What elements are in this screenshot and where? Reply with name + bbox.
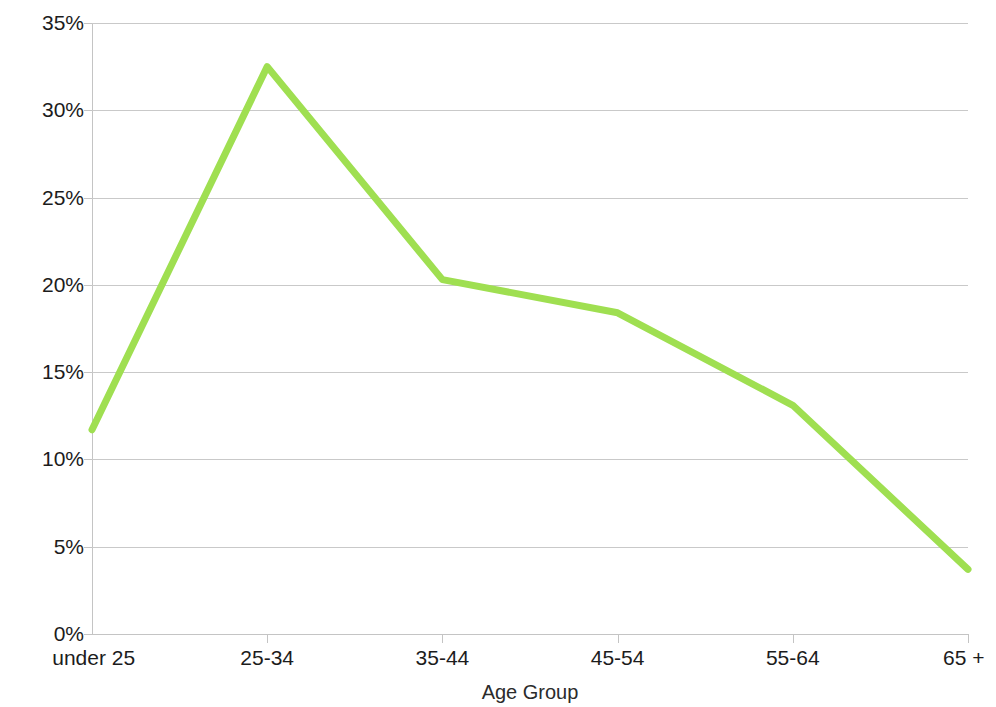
y-axis-tick-label: 0% <box>0 622 84 646</box>
y-axis-tick-mark <box>84 372 92 373</box>
x-axis-tick-mark <box>793 634 794 643</box>
gridline <box>92 634 968 635</box>
y-axis-tick-label: 10% <box>0 447 84 471</box>
y-axis-tick-mark <box>84 23 92 24</box>
x-axis-tick-label: 45-54 <box>591 646 645 670</box>
y-axis-tick-label: 20% <box>0 273 84 297</box>
x-axis-tick-mark <box>267 634 268 643</box>
y-axis-tick-mark <box>84 198 92 199</box>
x-axis-tick-mark <box>968 634 969 643</box>
x-axis-tick-label: under 25 <box>52 646 135 670</box>
plot-area <box>92 23 968 634</box>
series-line-percent-of-workforce <box>92 67 968 570</box>
y-axis-tick-label: 15% <box>0 360 84 384</box>
x-axis-tick-mark <box>442 634 443 643</box>
series-line-group <box>92 23 968 634</box>
y-axis-tick-label: 5% <box>0 535 84 559</box>
x-axis-tick-label: 25-34 <box>240 646 294 670</box>
x-axis-title: Age Group <box>92 681 968 704</box>
x-axis-tick-label: 65 + <box>943 646 984 670</box>
x-axis-tick-label: 35-44 <box>416 646 470 670</box>
y-axis-tick-labels: 0%5%10%15%20%25%30%35% <box>0 0 84 707</box>
y-axis-tick-label: 30% <box>0 98 84 122</box>
x-axis-tick-mark <box>618 634 619 643</box>
y-axis-tick-mark <box>84 459 92 460</box>
x-axis-tick-label: 55-64 <box>766 646 820 670</box>
y-axis-tick-mark <box>84 634 92 635</box>
y-axis-tick-label: 35% <box>0 11 84 35</box>
y-axis-tick-mark <box>84 547 92 548</box>
y-axis-tick-mark <box>84 110 92 111</box>
line-chart: Percent of Workforce 0%5%10%15%20%25%30%… <box>0 0 996 707</box>
y-axis-tick-mark <box>84 285 92 286</box>
y-axis-tick-label: 25% <box>0 186 84 210</box>
x-axis-tick-labels: under 2525-3435-4445-5455-6465 + <box>92 646 968 678</box>
